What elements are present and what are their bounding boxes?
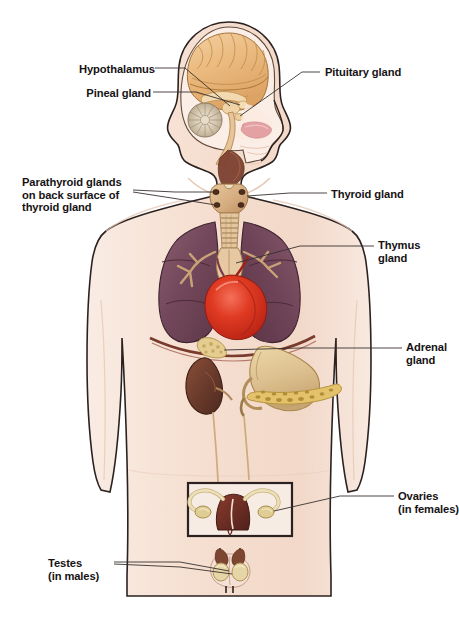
ovaries-inset	[188, 483, 292, 536]
anatomy-illustration	[0, 0, 459, 620]
label-testes: Testes (in males)	[48, 557, 114, 582]
label-pineal-gland: Pineal gland	[76, 87, 151, 100]
label-hypothalamus: Hypothalamus	[79, 63, 151, 76]
endocrine-system-figure: Hypothalamus Pineal gland Pituitary glan…	[0, 0, 459, 620]
label-thymus-gland: Thymus gland	[378, 239, 438, 264]
label-ovaries: Ovaries (in females)	[398, 490, 459, 515]
label-pituitary-gland: Pituitary gland	[325, 66, 425, 79]
label-adrenal-gland: Adrenal gland	[406, 341, 458, 366]
leader-parathyroid-upper	[133, 190, 214, 192]
label-parathyroid-glands: Parathyroid glands on back surface of th…	[22, 176, 134, 214]
cerebellum-structure	[188, 103, 222, 137]
leader-thyroid-gland	[247, 193, 327, 196]
label-thyroid-gland: Thyroid gland	[331, 188, 431, 201]
